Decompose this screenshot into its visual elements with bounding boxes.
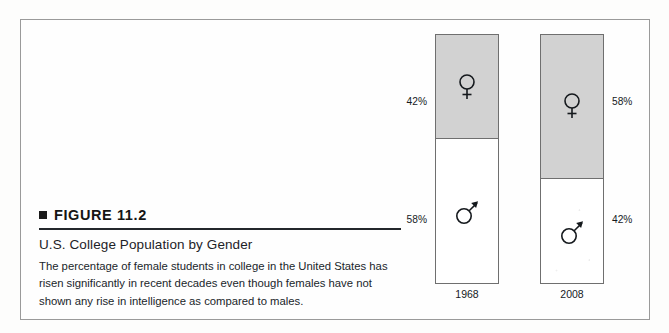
stacked-bar-chart: 42% 58% bbox=[393, 20, 651, 321]
figure-subtitle: U.S. College Population by Gender bbox=[39, 237, 424, 252]
male-percent-label-1968: 58% bbox=[407, 214, 427, 225]
bar-segment-female-2008[interactable] bbox=[541, 35, 603, 179]
figure-caption-block: FIGURE 11.2 U.S. College Population by G… bbox=[39, 206, 424, 310]
x-axis-label-2008: 2008 bbox=[540, 288, 604, 300]
bar-group-1968: 42% 58% bbox=[435, 34, 499, 284]
figure-body-text: The percentage of female students in col… bbox=[39, 258, 391, 311]
male-percent-label-2008: 42% bbox=[612, 214, 632, 225]
figure-number-label: FIGURE 11.2 bbox=[54, 207, 147, 223]
square-bullet-icon bbox=[39, 211, 47, 219]
bar-segment-female-1968[interactable] bbox=[436, 35, 498, 139]
bar-group-2008: 58% 42% bbox=[540, 34, 604, 284]
female-percent-label-2008: 58% bbox=[612, 96, 632, 107]
male-gender-icon bbox=[559, 217, 585, 245]
female-gender-icon bbox=[562, 92, 582, 120]
x-axis-label-1968: 1968 bbox=[435, 288, 499, 300]
bar-segment-male-1968[interactable] bbox=[436, 139, 498, 283]
figure-frame: FIGURE 11.2 U.S. College Population by G… bbox=[20, 19, 650, 320]
female-percent-label-1968: 42% bbox=[407, 96, 427, 107]
bar-1968[interactable] bbox=[435, 34, 499, 284]
bar-segment-male-2008[interactable] bbox=[541, 179, 603, 283]
figure-label-row: FIGURE 11.2 bbox=[39, 206, 424, 224]
caption-divider bbox=[39, 228, 401, 230]
female-gender-icon bbox=[457, 73, 477, 101]
male-gender-icon bbox=[454, 197, 480, 225]
bar-2008[interactable] bbox=[540, 34, 604, 284]
